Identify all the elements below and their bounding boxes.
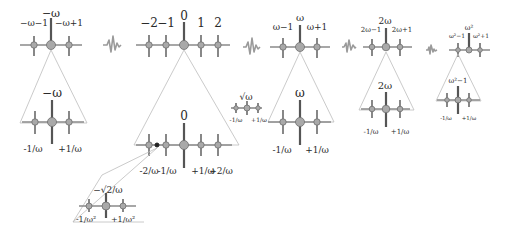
point-node <box>86 203 92 209</box>
point-node <box>466 47 472 53</box>
point-label: ω²−1 <box>449 32 465 39</box>
point-node <box>198 142 204 148</box>
wave-gap-icon <box>243 38 260 54</box>
zoom-label: -1/ω <box>272 145 291 155</box>
point-node <box>280 119 286 125</box>
hyperreal-number-line-diagram: −ω−1 −ω −ω+1 −ω -1/ω +1/ω −2 −1 0 1 2 <box>0 0 506 240</box>
sqrt2-point <box>155 143 159 147</box>
point-label: ω² <box>465 24 474 32</box>
point-label: ω <box>296 12 304 23</box>
zoom-label: +1/ω <box>58 144 82 154</box>
point-node <box>296 118 305 127</box>
point-node <box>215 142 221 148</box>
zoom-center-label: −√2/ω <box>93 185 122 195</box>
point-node <box>66 119 72 125</box>
panel-sqrt-omega: √ω -1/ω +1/ω <box>230 92 267 123</box>
zoom-label: -1/ω <box>364 128 379 136</box>
point-label: 2ω−1 <box>361 26 381 34</box>
point-node <box>163 42 169 48</box>
wave-gap-icon <box>426 45 437 54</box>
point-node <box>244 105 250 111</box>
zoom-center-label: −ω <box>42 86 62 100</box>
point-node <box>456 48 461 53</box>
zoom-center-label: ω²−1 <box>449 77 468 85</box>
panel-neg-omega: −ω−1 −ω −ω+1 −ω -1/ω +1/ω <box>20 7 87 154</box>
point-node <box>180 141 189 150</box>
zoom-label: -1/ω <box>440 115 452 121</box>
point-node <box>314 44 320 50</box>
zoom-label: -1/ω² <box>76 215 96 224</box>
point-label: ω²+1 <box>473 32 489 39</box>
wave-gap-icon <box>342 40 356 52</box>
zoom-center-label: 0 <box>180 109 188 123</box>
point-label: 2ω <box>378 16 391 26</box>
zoom-label: +1/ω <box>462 115 477 121</box>
point-node <box>163 142 169 148</box>
point-node <box>382 43 390 51</box>
sub-zoom-sqrt2: −√2/ω -1/ω² +1/ω² <box>73 148 157 224</box>
point-node <box>296 43 305 52</box>
point-label: 0 <box>180 9 188 23</box>
zoom-label: -1/ω <box>157 166 176 176</box>
point-label: ω+1 <box>307 22 328 32</box>
point-label: 2ω+1 <box>392 26 412 34</box>
point-node <box>382 105 390 113</box>
point-node <box>32 119 38 125</box>
point-node <box>146 42 152 48</box>
point-node <box>397 44 403 50</box>
point-label: 1 <box>197 16 205 30</box>
point-label: √ω <box>239 92 252 102</box>
zoom-label: +1/ω <box>251 116 267 123</box>
point-node <box>467 98 472 103</box>
point-node <box>31 42 37 48</box>
point-node <box>215 42 221 48</box>
zoom-label: -1/ω <box>230 116 243 123</box>
point-node <box>66 42 72 48</box>
point-label: −2 <box>140 16 158 30</box>
point-node <box>120 203 126 209</box>
point-label: −ω+1 <box>55 18 83 28</box>
point-label: ω−1 <box>273 22 294 32</box>
zoom-center-label: 2ω <box>378 80 393 91</box>
point-node <box>314 119 320 125</box>
point-node <box>280 44 286 50</box>
zoom-label: +1/ω <box>391 128 410 136</box>
panel-omega: ω−1 ω ω+1 ω -1/ω +1/ω <box>268 12 334 155</box>
point-node <box>445 98 450 103</box>
point-node <box>48 118 57 127</box>
zoom-cone <box>134 50 239 145</box>
panel-two-omega: 2ω−1 2ω 2ω+1 2ω -1/ω +1/ω <box>359 16 414 136</box>
point-node <box>146 142 152 148</box>
wave-gap-icon <box>103 36 121 52</box>
point-node <box>455 97 461 103</box>
zoom-label: -2/ω <box>139 166 158 176</box>
point-node <box>234 106 238 110</box>
zoom-label: +2/ω <box>209 166 233 176</box>
zoom-center-label: ω <box>295 86 305 100</box>
point-node <box>47 41 56 50</box>
panel-integers: −2 −1 0 1 2 0 -2/ω -1/ω +1/ω +2/ω <box>73 9 239 224</box>
zoom-label: +1/ω <box>305 145 329 155</box>
point-node <box>256 106 260 110</box>
point-node <box>369 106 375 112</box>
point-node <box>397 106 403 112</box>
point-label: −1 <box>157 16 175 30</box>
point-node <box>369 44 375 50</box>
point-label: 2 <box>214 16 222 30</box>
point-node <box>180 41 189 50</box>
zoom-label: -1/ω <box>23 144 42 154</box>
point-node <box>102 202 110 210</box>
zoom-label: +1/ω² <box>111 215 135 224</box>
point-node <box>198 42 204 48</box>
point-node <box>478 48 483 53</box>
panel-omega-squared: ω²−1 ω² ω²+1 ω²−1 -1/ω +1/ω <box>436 24 490 121</box>
